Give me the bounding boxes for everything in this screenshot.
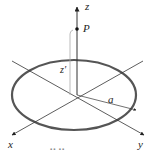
height-guide [70, 30, 73, 95]
height-label: z′ [60, 65, 66, 75]
x-axis-label: x [8, 139, 13, 150]
radius-label: a [108, 94, 114, 105]
point-p-label: P [83, 23, 90, 34]
y-axis-label: y [138, 139, 143, 150]
charged-ring [12, 60, 136, 130]
caption-partial: ▪▪ ▪▪ [50, 146, 65, 152]
z-axis-label: z [85, 1, 89, 12]
ring-diagram [0, 0, 148, 152]
point-p [75, 27, 79, 31]
